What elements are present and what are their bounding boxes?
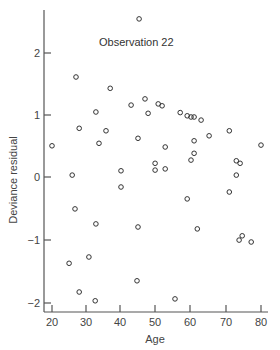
data-point <box>259 143 264 148</box>
x-tick-label: 50 <box>149 316 161 328</box>
data-point <box>94 222 99 227</box>
data-point <box>104 129 109 134</box>
y-axis-label: Deviance residual <box>7 136 19 223</box>
data-point <box>119 185 124 190</box>
x-tick-label: 70 <box>220 316 232 328</box>
data-point <box>77 126 82 131</box>
data-point <box>199 118 204 123</box>
y-tick-label: 2 <box>34 47 40 59</box>
data-point <box>185 197 190 202</box>
data-point <box>97 141 102 146</box>
data-point <box>234 173 239 178</box>
data-point <box>143 97 148 102</box>
data-point <box>207 134 212 139</box>
data-point <box>87 255 92 260</box>
data-point <box>119 169 124 174</box>
data-point <box>67 261 72 266</box>
data-point <box>192 151 197 156</box>
data-point <box>173 297 178 302</box>
data-point <box>192 115 197 120</box>
data-point <box>129 103 134 108</box>
data-point <box>195 227 200 232</box>
x-ticks: 20 30 40 50 60 70 80 <box>46 305 267 328</box>
observation-22-annotation: Observation 22 <box>99 36 174 48</box>
y-tick-label: −2 <box>27 297 40 309</box>
y-tick-label: 1 <box>34 109 40 121</box>
data-point <box>238 161 243 166</box>
data-point <box>108 86 113 91</box>
data-point <box>189 158 194 163</box>
data-point <box>178 110 183 115</box>
x-tick-label: 60 <box>184 316 196 328</box>
y-tick-label: −1 <box>27 234 40 246</box>
x-tick-label: 30 <box>80 316 92 328</box>
data-point <box>160 104 165 109</box>
data-point <box>146 111 151 116</box>
y-ticks: 2 1 0 −1 −2 <box>27 47 51 309</box>
data-point <box>163 167 168 172</box>
x-tick-label: 80 <box>255 316 267 328</box>
data-point <box>93 299 98 304</box>
data-point <box>136 136 141 141</box>
data-point <box>73 207 78 212</box>
data-point <box>249 240 254 245</box>
y-tick-label: 0 <box>34 171 40 183</box>
data-point <box>227 129 232 134</box>
data-point <box>227 190 232 195</box>
data-point <box>74 75 79 80</box>
data-points <box>50 17 264 304</box>
x-axis-label: Age <box>145 333 165 345</box>
data-point <box>153 168 158 173</box>
data-point <box>192 139 197 144</box>
scatter-plot: 2 1 0 −1 −2 20 30 40 50 60 70 80 Age Dev… <box>0 0 280 350</box>
data-point <box>77 290 82 295</box>
data-point <box>94 110 99 115</box>
data-point <box>163 145 168 150</box>
data-point <box>50 144 55 149</box>
data-point <box>70 173 75 178</box>
data-point <box>153 161 158 166</box>
data-point <box>137 17 142 22</box>
data-point <box>136 225 141 230</box>
data-point <box>237 238 242 243</box>
x-tick-label: 20 <box>46 316 58 328</box>
x-tick-label: 40 <box>114 316 126 328</box>
data-point <box>240 234 245 239</box>
data-point <box>135 279 140 284</box>
